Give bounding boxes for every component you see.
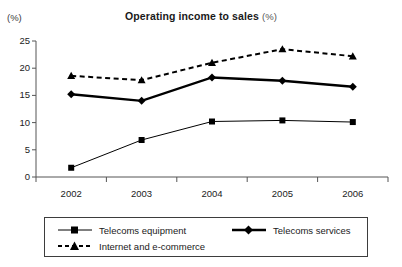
legend-label-1: Telecoms services xyxy=(273,225,351,236)
data-point-marker xyxy=(139,137,145,143)
x-tick-label: 2004 xyxy=(187,188,237,199)
legend-label-2: Internet and e-commerce xyxy=(99,241,205,252)
legend-label-0: Telecoms equipment xyxy=(99,225,186,236)
y-tick-label: 25 xyxy=(8,36,30,46)
x-tick-label: 2002 xyxy=(46,188,96,199)
x-tick-label: 2006 xyxy=(328,188,378,199)
legend-marker-triangle-icon xyxy=(57,240,93,252)
y-tick-label: 15 xyxy=(8,90,30,100)
data-point-marker xyxy=(350,119,356,125)
data-point-marker xyxy=(138,76,146,83)
y-tick-label: 20 xyxy=(8,63,30,73)
chart-container: Operating income to sales (%) (%) 051015… xyxy=(0,0,402,267)
data-point-marker xyxy=(209,119,215,125)
x-tick-label: 2003 xyxy=(117,188,167,199)
legend-item-internet-ecommerce: Internet and e-commerce xyxy=(57,240,205,252)
data-point-marker xyxy=(208,73,216,81)
y-tick-label: 10 xyxy=(8,118,30,128)
y-tick-label: 0 xyxy=(8,172,30,182)
data-point-marker xyxy=(279,117,285,123)
series-1 xyxy=(67,73,357,104)
y-axis-unit-label: (%) xyxy=(7,12,22,23)
axes xyxy=(32,41,388,182)
chart-title: Operating income to sales (%) xyxy=(0,10,402,22)
legend-item-telecoms-equipment: Telecoms equipment xyxy=(57,224,186,236)
data-point-marker xyxy=(278,77,286,85)
plot-svg xyxy=(36,41,388,177)
x-tick-label: 2005 xyxy=(257,188,307,199)
data-point-marker xyxy=(138,97,146,105)
legend-marker-square-icon xyxy=(57,224,93,236)
data-series xyxy=(67,45,357,171)
legend-item-telecoms-services: Telecoms services xyxy=(231,224,351,236)
chart-title-unit: (%) xyxy=(262,11,277,22)
series-0 xyxy=(68,117,356,170)
data-point-marker xyxy=(278,45,286,52)
legend: Telecoms equipment Telecoms services Int… xyxy=(44,217,368,257)
y-tick-label: 5 xyxy=(8,145,30,155)
data-point-marker xyxy=(349,83,357,91)
data-point-marker xyxy=(67,90,75,98)
chart-title-text: Operating income to sales xyxy=(125,10,259,22)
legend-marker-diamond-icon xyxy=(231,224,267,236)
plot-area xyxy=(36,41,388,177)
data-point-marker xyxy=(68,165,74,171)
